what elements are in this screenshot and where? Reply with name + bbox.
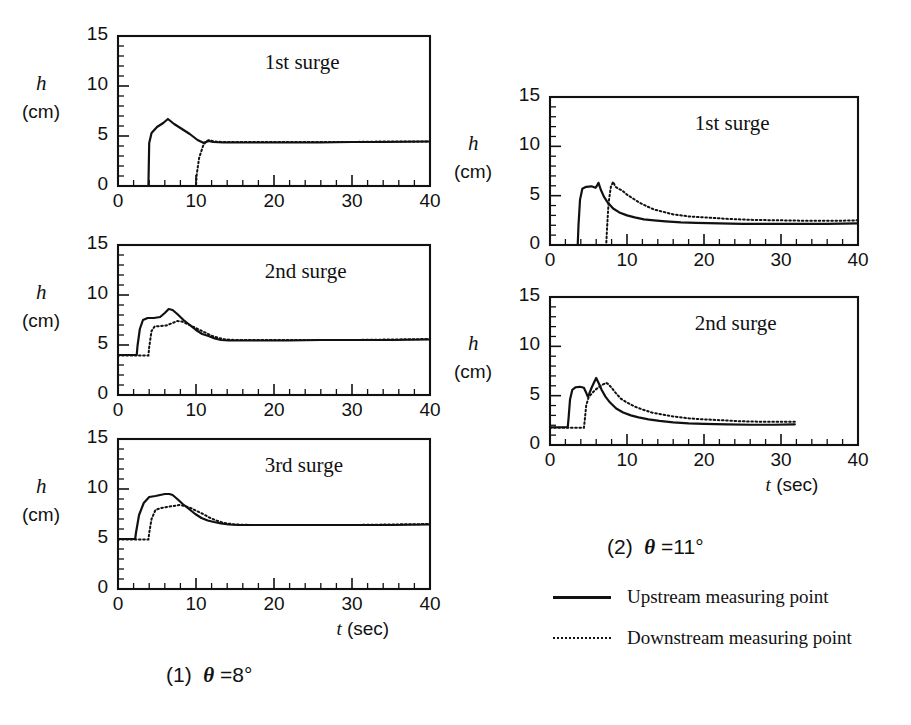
x-tick-label: 10 — [607, 449, 647, 471]
caption-theta-symbol: θ — [203, 663, 214, 687]
y-tick-label: 15 — [70, 23, 108, 45]
y-axis-unit: (cm) — [454, 361, 492, 383]
series-upstream — [118, 494, 430, 539]
caption-theta-symbol: θ — [644, 535, 655, 559]
panel-title-p3: 3rd surge — [265, 453, 343, 478]
x-axis-unit: (sec) — [771, 474, 819, 495]
y-axis-symbol: h — [36, 474, 47, 499]
x-tick-label: 20 — [684, 449, 724, 471]
y-axis-symbol: h — [36, 280, 47, 305]
x-tick-label: 20 — [254, 593, 294, 615]
caption-theta-value: =11° — [655, 535, 703, 558]
group-caption-theta8: (1) θ =8° — [166, 663, 252, 688]
legend-label: Downstream measuring point — [627, 627, 852, 649]
y-tick-label: 15 — [70, 426, 108, 448]
x-tick-label: 40 — [838, 449, 878, 471]
x-axis-title: t (sec) — [336, 618, 389, 640]
y-tick-label: 15 — [502, 284, 540, 306]
y-tick-label: 10 — [502, 333, 540, 355]
legend-item-upstream: Upstream measuring point — [553, 586, 829, 608]
y-tick-label: 5 — [70, 123, 108, 145]
y-tick-label: 5 — [502, 183, 540, 205]
figure-root: 1st surge151050h(cm)0102030402nd surge15… — [0, 0, 911, 725]
caption-theta-value: =8° — [214, 663, 252, 686]
series-downstream — [550, 383, 795, 428]
y-tick-label: 10 — [70, 476, 108, 498]
y-axis-symbol: h — [468, 331, 479, 356]
x-axis-unit: (sec) — [342, 618, 390, 639]
y-axis-symbol: h — [468, 131, 479, 156]
y-tick-label: 10 — [70, 282, 108, 304]
y-axis-unit: (cm) — [22, 310, 60, 332]
group-caption-theta11: (2) θ =11° — [607, 535, 704, 560]
y-tick-label: 5 — [70, 526, 108, 548]
x-tick-label: 30 — [332, 593, 372, 615]
legend-line-dotted — [553, 632, 611, 644]
legend-label: Upstream measuring point — [627, 586, 829, 608]
caption-index: (2) — [607, 535, 644, 558]
series-upstream — [118, 309, 430, 355]
x-tick-label: 0 — [530, 449, 570, 471]
x-tick-label: 30 — [761, 449, 801, 471]
panel-title-p4: 1st surge — [695, 111, 770, 136]
x-tick-label: 40 — [410, 593, 450, 615]
x-tick-label: 10 — [176, 593, 216, 615]
y-tick-label: 10 — [502, 133, 540, 155]
y-axis-unit: (cm) — [22, 101, 60, 123]
legend-item-downstream: Downstream measuring point — [553, 627, 852, 649]
legend-line-solid — [553, 591, 611, 603]
series-downstream — [118, 505, 430, 540]
panel-title-p2: 2nd surge — [265, 259, 347, 284]
y-tick-label: 15 — [502, 84, 540, 106]
y-tick-label: 5 — [502, 383, 540, 405]
legend-line-glyph — [553, 637, 611, 639]
caption-index: (1) — [166, 663, 203, 686]
x-tick-label: 0 — [98, 593, 138, 615]
y-tick-label: 10 — [70, 73, 108, 95]
y-axis-unit: (cm) — [22, 504, 60, 526]
y-axis-unit: (cm) — [454, 161, 492, 183]
y-axis-symbol: h — [36, 71, 47, 96]
panel-title-p5: 2nd surge — [695, 311, 777, 336]
legend-line-glyph — [553, 596, 611, 599]
y-tick-label: 15 — [70, 232, 108, 254]
y-tick-label: 5 — [70, 332, 108, 354]
x-axis-title: t (sec) — [766, 474, 819, 496]
panel-title-p1: 1st surge — [265, 50, 340, 75]
series-downstream — [118, 321, 430, 356]
